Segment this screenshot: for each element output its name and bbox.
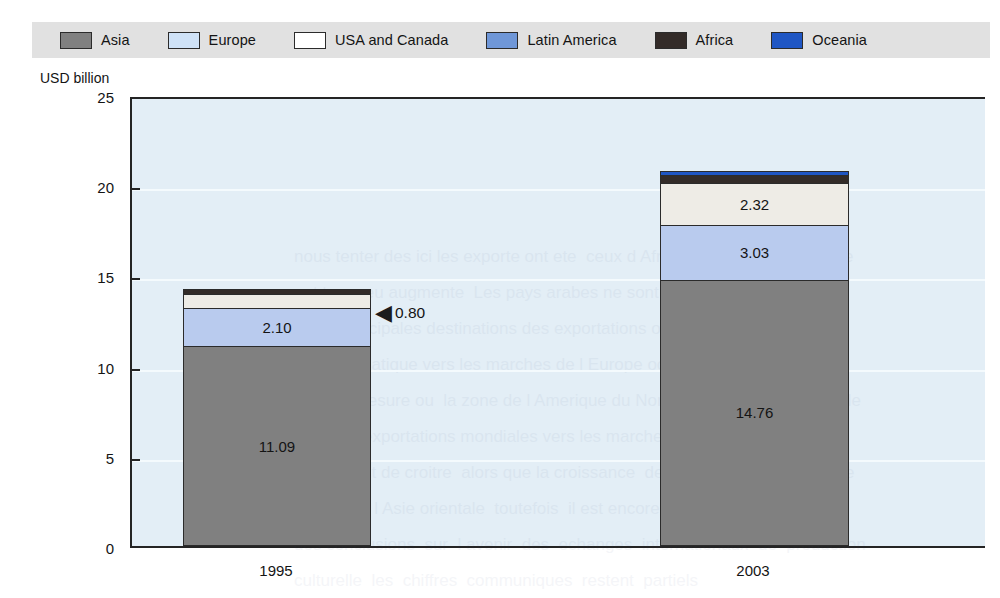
bar-1995-segment-usa-and-canada[interactable] (183, 294, 371, 308)
y-tick-label-20: 20 (72, 179, 114, 196)
bar-2003-segment-oceania[interactable] (660, 171, 849, 175)
bar-2003-segment-usa-and-canada[interactable]: 2.32 (660, 183, 849, 225)
y-axis-title: USD billion (40, 70, 109, 86)
bar-1995-segment-asia[interactable]: 11.09 (183, 346, 371, 546)
page-bleed-through: nous tenter des ici les exporte ont ete … (264, 199, 1000, 598)
bar-2003-label-asia: 14.76 (736, 405, 774, 420)
y-tick-label-0: 0 (72, 540, 114, 557)
annotation-usa-canada-1995: ◀ 0.80 (375, 302, 425, 324)
y-tick-mark-15 (131, 278, 140, 280)
y-tick-label-10: 10 (72, 359, 114, 376)
y-tick-label-15: 15 (72, 269, 114, 286)
y-tick-mark-10 (131, 369, 140, 371)
gridline-15 (132, 279, 985, 281)
legend-item-africa: Africa (655, 32, 734, 49)
y-tick-label-25: 25 (72, 89, 114, 106)
legend-swatch-latin-america (486, 32, 518, 49)
legend-item-oceania: Oceania (771, 32, 867, 49)
plot-area: nous tenter des ici les exporte ont ete … (130, 97, 985, 548)
bar-2003-segment-latin-america[interactable]: 3.03 (660, 225, 849, 280)
legend-item-usa-and-canada: USA and Canada (294, 32, 448, 49)
legend-label-europe: Europe (209, 32, 256, 48)
x-tick-label-1995: 1995 (259, 562, 292, 579)
legend-label-africa: Africa (696, 32, 734, 48)
legend-swatch-asia (60, 32, 92, 49)
left-arrow-icon: ◀ (375, 302, 390, 324)
annotation-value: 0.80 (395, 304, 425, 322)
legend-swatch-europe (168, 32, 200, 49)
x-tick-label-2003: 2003 (736, 562, 769, 579)
y-tick-label-5: 5 (72, 449, 114, 466)
legend-swatch-oceania (771, 32, 803, 49)
legend-swatch-usa-and-canada (294, 32, 326, 49)
legend-item-asia: Asia (60, 32, 130, 49)
gridline-20 (132, 189, 985, 191)
bar-1995-segment-africa[interactable] (183, 289, 371, 294)
y-tick-mark-5 (131, 459, 140, 461)
bar-2003-segment-africa[interactable] (660, 175, 849, 183)
y-tick-mark-20 (131, 188, 140, 190)
legend-label-oceania: Oceania (812, 32, 867, 48)
legend-swatch-africa (655, 32, 687, 49)
legend-item-latin-america: Latin America (486, 32, 616, 49)
legend-label-usa-and-canada: USA and Canada (335, 32, 448, 48)
chart-legend: Asia Europe USA and Canada Latin America… (32, 22, 990, 58)
bar-2003-segment-asia[interactable]: 14.76 (660, 280, 849, 546)
legend-item-europe: Europe (168, 32, 256, 49)
bar-1995-label-asia: 11.09 (259, 439, 295, 454)
bar-1995-segment-latin-america[interactable]: 2.10 (183, 308, 371, 346)
bar-2003-label-usa-and-canada: 2.32 (740, 197, 769, 212)
bar-2003[interactable]: 14.76 3.03 2.32 (660, 171, 849, 546)
bar-1995[interactable]: 11.09 2.10 (183, 289, 371, 546)
legend-label-asia: Asia (101, 32, 130, 48)
legend-label-latin-america: Latin America (527, 32, 616, 48)
bar-1995-label-latin-america: 2.10 (262, 320, 291, 335)
bar-2003-label-latin-america: 3.03 (740, 245, 769, 260)
